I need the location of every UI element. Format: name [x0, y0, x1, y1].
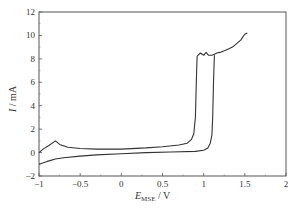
plot-frame [39, 12, 286, 176]
x-tick-label: −1 [34, 179, 44, 189]
y-tick-label: 12 [26, 7, 35, 17]
series-line [39, 33, 247, 153]
x-tick-label: 2 [284, 179, 289, 189]
cyclic-polarization-chart: −1−0.500.511.52 −2024681012 EMSE / V I /… [0, 0, 298, 213]
x-tick-label: −0.5 [72, 179, 89, 189]
series-line [39, 55, 214, 164]
y-axis-label: I / mA [7, 85, 18, 113]
y-tick-label: 8 [31, 54, 36, 64]
y-axis-ticks: −2024681012 [25, 7, 42, 181]
x-tick-label: 0 [119, 179, 124, 189]
y-tick-label: 6 [31, 77, 36, 87]
y-tick-label: 4 [31, 101, 36, 111]
y-tick-label: −2 [25, 171, 35, 181]
x-tick-label: 1 [201, 179, 206, 189]
x-tick-label: 0.5 [157, 179, 169, 189]
y-tick-label: 0 [31, 148, 36, 158]
y-tick-label: 10 [26, 30, 36, 40]
x-tick-label: 1.5 [239, 179, 251, 189]
x-axis-label: EMSE / V [134, 190, 171, 203]
y-tick-label: 2 [31, 124, 36, 134]
data-series [39, 33, 247, 164]
x-axis-ticks: −1−0.500.511.52 [34, 173, 288, 189]
